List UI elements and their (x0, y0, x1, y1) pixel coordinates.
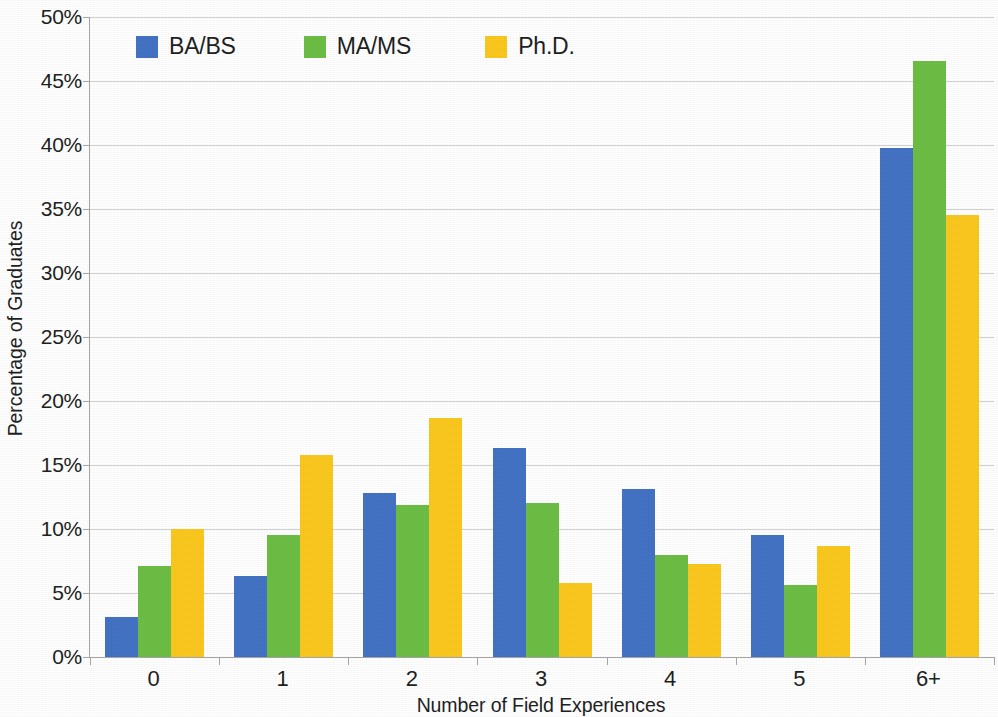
bar (363, 493, 396, 657)
x-tick-label: 6+ (916, 666, 941, 692)
x-tick-mark (90, 657, 91, 665)
y-axis-tick-labels: 0%5%10%15%20%25%30%35%40%45%50% (26, 0, 82, 717)
x-tick-mark (607, 657, 608, 665)
bar (138, 566, 171, 657)
y-tick-label: 15% (24, 453, 82, 477)
y-tick-label: 0% (24, 645, 82, 669)
bar-group (493, 17, 592, 657)
x-tick-mark (477, 657, 478, 665)
x-tick-label: 3 (535, 666, 547, 692)
legend-label: Ph.D. (518, 33, 575, 60)
legend-swatch-icon (304, 36, 326, 58)
x-tick-mark (865, 657, 866, 665)
bar-group (105, 17, 204, 657)
y-tick-label: 10% (24, 517, 82, 541)
legend-item: Ph.D. (485, 33, 575, 60)
y-tick-mark (83, 337, 90, 338)
y-tick-mark (83, 593, 90, 594)
legend-item: BA/BS (136, 33, 236, 60)
bar-group (363, 17, 462, 657)
bar (913, 61, 946, 657)
bar (655, 555, 688, 657)
y-tick-mark (83, 401, 90, 402)
bar (688, 564, 721, 657)
y-tick-label: 35% (24, 197, 82, 221)
y-tick-mark (83, 145, 90, 146)
bar (526, 503, 559, 657)
y-tick-label: 40% (24, 133, 82, 157)
x-tick-label: 2 (406, 666, 418, 692)
legend-label: MA/MS (337, 33, 411, 60)
x-axis-title: Number of Field Experiences (89, 694, 993, 717)
bar (622, 489, 655, 657)
bar-group (234, 17, 333, 657)
bar (493, 448, 526, 657)
x-tick-mark (994, 657, 995, 665)
legend-swatch-icon (136, 36, 158, 58)
y-tick-mark (83, 209, 90, 210)
bar-group (622, 17, 721, 657)
plot-area (89, 17, 994, 658)
x-tick-label: 1 (277, 666, 289, 692)
y-tick-label: 20% (24, 389, 82, 413)
y-tick-mark (83, 657, 90, 658)
bar (267, 535, 300, 657)
y-tick-label: 30% (24, 261, 82, 285)
x-tick-mark (736, 657, 737, 665)
bar (171, 529, 204, 657)
x-tick-mark (219, 657, 220, 665)
bar (946, 215, 979, 657)
bar (300, 455, 333, 657)
y-tick-mark (83, 17, 90, 18)
bar-group (751, 17, 850, 657)
bar (559, 583, 592, 657)
legend-swatch-icon (485, 36, 507, 58)
x-tick-label: 4 (664, 666, 676, 692)
y-tick-mark (83, 81, 90, 82)
y-tick-mark (83, 465, 90, 466)
y-tick-label: 25% (24, 325, 82, 349)
bar (751, 535, 784, 657)
y-tick-mark (83, 529, 90, 530)
x-tick-mark (348, 657, 349, 665)
bar (234, 576, 267, 657)
bar (880, 148, 913, 657)
x-tick-label: 5 (793, 666, 805, 692)
bar-group (880, 17, 979, 657)
bar-chart: Percentage of Graduates 0%5%10%15%20%25%… (0, 0, 998, 717)
y-tick-mark (83, 273, 90, 274)
y-tick-label: 50% (24, 5, 82, 29)
bar (396, 505, 429, 657)
y-tick-label: 5% (24, 581, 82, 605)
x-tick-label: 0 (147, 666, 159, 692)
bar (784, 585, 817, 657)
legend-label: BA/BS (169, 33, 236, 60)
bar (817, 546, 850, 657)
bar (429, 418, 462, 657)
legend-item: MA/MS (304, 33, 411, 60)
y-tick-label: 45% (24, 69, 82, 93)
legend: BA/BSMA/MSPh.D. (136, 33, 575, 60)
bar (105, 617, 138, 657)
